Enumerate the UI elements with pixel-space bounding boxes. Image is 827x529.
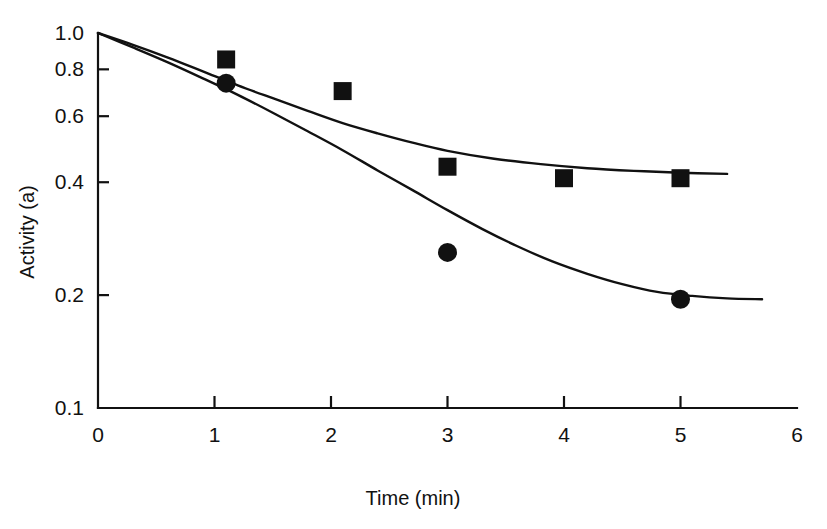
- y-tick-label: 0.4: [55, 170, 85, 193]
- x-tick-label: 1: [209, 423, 221, 446]
- x-tick-label: 4: [558, 423, 570, 446]
- fit-curve-circle: [98, 33, 762, 299]
- data-point-circle: [217, 74, 236, 93]
- chart-figure: 1.00.80.60.40.20.1 0123456 Time (min) Ac…: [0, 0, 827, 529]
- x-tick-label: 3: [442, 423, 454, 446]
- x-tick-marks: [215, 396, 681, 408]
- data-point-square: [672, 169, 690, 187]
- x-axis-group: 0123456: [92, 396, 803, 446]
- plot-canvas: 1.00.80.60.40.20.1 0123456 Time (min) Ac…: [0, 0, 827, 529]
- data-point-circle: [438, 243, 457, 262]
- x-tick-label: 5: [675, 423, 687, 446]
- x-axis-title: Time (min): [366, 487, 461, 509]
- fit-curves: [98, 33, 762, 299]
- y-tick-label: 0.8: [55, 57, 84, 80]
- y-axis-title: Activity (a): [16, 185, 38, 278]
- x-tick-label: 6: [791, 423, 803, 446]
- data-point-square: [217, 50, 235, 68]
- x-tick-label: 2: [325, 423, 337, 446]
- data-point-square: [439, 158, 457, 176]
- data-markers: [217, 50, 690, 308]
- y-tick-labels: 1.00.80.60.40.20.1: [55, 21, 85, 419]
- data-point-circle: [671, 290, 690, 309]
- x-tick-label: 0: [92, 423, 104, 446]
- y-tick-marks: [98, 69, 109, 295]
- y-tick-label: 1.0: [55, 21, 84, 44]
- fit-curve-square: [98, 33, 727, 174]
- y-tick-label: 0.2: [55, 283, 84, 306]
- y-axis-group: 1.00.80.60.40.20.1: [55, 21, 109, 419]
- data-point-square: [555, 169, 573, 187]
- y-tick-label: 0.6: [55, 104, 84, 127]
- x-tick-labels: 0123456: [92, 423, 803, 446]
- y-tick-label: 0.1: [55, 396, 84, 419]
- data-point-square: [334, 82, 352, 100]
